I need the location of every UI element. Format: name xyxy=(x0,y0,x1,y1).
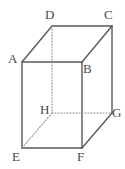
vertex-label-b: B xyxy=(83,62,92,75)
vertex-label-h: H xyxy=(40,103,49,116)
solid-edges-group xyxy=(22,26,112,148)
edge-BC xyxy=(82,26,112,62)
vertex-label-d: D xyxy=(45,8,54,21)
edge-FG xyxy=(82,113,112,148)
geometry-figure: ABCDEFGH xyxy=(0,0,125,169)
cuboid-diagram xyxy=(0,0,125,169)
edge-AD xyxy=(22,26,52,62)
vertex-label-c: C xyxy=(104,8,113,21)
vertex-label-a: A xyxy=(8,52,17,65)
vertex-label-g: G xyxy=(112,106,121,119)
vertex-label-e: E xyxy=(12,150,20,163)
vertex-label-f: F xyxy=(77,150,84,163)
edge-HE xyxy=(22,113,52,148)
